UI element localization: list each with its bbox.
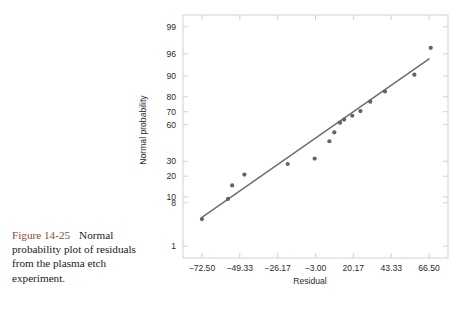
y-tick-label: 70 [166,107,176,117]
x-tick-label: 66.50 [418,263,440,273]
y-tick-label: 90 [166,71,176,81]
y-tick-label: 99 [166,22,176,32]
y-tick-label: 1 [171,241,176,251]
data-point [200,217,204,221]
data-point [332,130,336,134]
y-tick-label: 60 [166,120,176,130]
y-tick-label: 96 [166,49,176,59]
data-point [429,46,433,50]
x-tick-label: −49.33 [227,263,254,273]
data-point [230,183,234,187]
data-point [350,114,354,118]
plot-frame [183,15,448,258]
x-axis-tick-labels: −72.50−49.33−26.17−3.0020.1743.3366.50 [189,263,440,273]
figure-container: −72.50−49.33−26.17−3.0020.1743.3366.50 1… [0,0,476,315]
figure-number: Figure 14-25 [12,229,70,241]
y-axis-title: Normal probability [138,95,148,165]
data-point [338,121,342,125]
figure-caption: Figure 14-25Normal probability plot of r… [12,228,144,285]
y-tick-label: 80 [166,92,176,102]
data-point [313,156,317,160]
data-point [342,117,346,121]
data-point [286,162,290,166]
data-point [327,139,331,143]
x-tick-label: 20.17 [343,263,365,273]
y-tick-label: 30 [166,156,176,166]
x-axis-ticks [202,15,429,258]
data-point [226,197,230,201]
data-point [358,109,362,113]
x-tick-label: −72.50 [189,263,216,273]
x-axis-title: Residual [293,276,327,286]
x-tick-label: −26.17 [264,263,291,273]
y-axis-tick-labels: 18102030607080909699 [166,22,176,251]
reference-line [202,59,429,218]
x-tick-label: 43.33 [380,263,402,273]
y-tick-label: 20 [166,171,176,181]
x-tick-label: −3.00 [305,263,327,273]
data-point [242,172,246,176]
data-point [412,73,416,77]
y-tick-label: 10 [166,192,176,202]
y-axis-ticks [183,27,448,246]
data-point [383,89,387,93]
data-point [368,100,372,104]
